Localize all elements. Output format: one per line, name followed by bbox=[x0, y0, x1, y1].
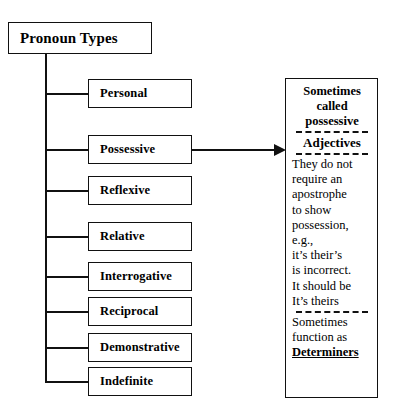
node-pronoun-types: Pronoun Types bbox=[8, 22, 152, 54]
node-label: Pronoun Types bbox=[20, 30, 118, 47]
panel-body-line: it’s their’s bbox=[292, 248, 372, 263]
panel-body-line: require an bbox=[292, 172, 372, 187]
panel-body-line: apostrophe bbox=[292, 187, 372, 202]
node-label: Personal bbox=[100, 86, 147, 101]
node-demonstrative: Demonstrative bbox=[88, 333, 192, 362]
connector-personal bbox=[45, 93, 89, 95]
node-personal: Personal bbox=[88, 79, 192, 108]
panel-body-line: possession, bbox=[292, 218, 372, 233]
connector-demonstrative bbox=[45, 347, 89, 349]
panel-body-line: e.g., bbox=[292, 233, 372, 248]
panel-body-line: They do not bbox=[292, 157, 372, 172]
node-interrogative: Interrogative bbox=[88, 262, 192, 291]
panel-body-line: It should be bbox=[292, 279, 372, 294]
panel-heading-line-3: possessive bbox=[292, 114, 372, 129]
arrow-possessive-to-panel-shaft bbox=[192, 149, 280, 151]
connector-relative bbox=[45, 236, 89, 238]
node-possessive: Possessive bbox=[88, 135, 192, 164]
panel-body-line: is incorrect. bbox=[292, 263, 372, 278]
connector-interrogative bbox=[45, 276, 89, 278]
node-label: Demonstrative bbox=[100, 340, 180, 355]
node-reflexive: Reflexive bbox=[88, 176, 192, 205]
node-label: Interrogative bbox=[100, 269, 172, 284]
panel-body-line: to show bbox=[292, 203, 372, 218]
panel-footer-text: Sometimes function as Determiners bbox=[292, 315, 372, 361]
panel-heading-line-1: Sometimes bbox=[292, 84, 372, 99]
node-label: Possessive bbox=[100, 142, 155, 157]
panel-divider-middle bbox=[296, 153, 368, 155]
trunk-line bbox=[45, 54, 47, 381]
panel-footer-line-1: Sometimes bbox=[292, 315, 372, 330]
panel-body-text: They do not require an apostrophe to sho… bbox=[292, 157, 372, 309]
connector-reciprocal bbox=[45, 311, 89, 313]
node-label: Reciprocal bbox=[100, 304, 158, 319]
node-reciprocal: Reciprocal bbox=[88, 297, 192, 326]
pronoun-types-diagram: Pronoun Types Personal Possessive Reflex… bbox=[0, 0, 393, 413]
panel-footer-line-2: function as bbox=[292, 330, 372, 345]
panel-divider-bottom bbox=[296, 311, 368, 313]
node-label: Indefinite bbox=[100, 374, 153, 389]
node-label: Relative bbox=[100, 229, 145, 244]
panel-heading-line-2: called bbox=[292, 99, 372, 114]
connector-possessive bbox=[45, 149, 89, 151]
panel-footer-emphasis-determiners: Determiners bbox=[292, 345, 372, 360]
connector-indefinite bbox=[45, 381, 89, 383]
panel-subheading: Adjectives bbox=[292, 135, 372, 151]
connector-reflexive bbox=[45, 190, 89, 192]
node-relative: Relative bbox=[88, 222, 192, 251]
panel-heading: Sometimes called possessive bbox=[292, 84, 372, 129]
panel-body-line: It’s theirs bbox=[292, 294, 372, 309]
node-label: Reflexive bbox=[100, 183, 150, 198]
node-indefinite: Indefinite bbox=[88, 367, 192, 396]
annotation-panel-possessive-adjectives: Sometimes called possessive Adjectives T… bbox=[285, 78, 378, 398]
panel-divider-top bbox=[296, 131, 368, 133]
